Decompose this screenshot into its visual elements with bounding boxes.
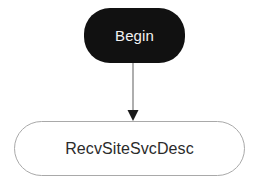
node-recvsitesvcdesc-label: RecvSiteSvcDesc [65, 141, 194, 157]
node-begin[interactable]: Begin [84, 8, 185, 63]
node-begin-label: Begin [115, 28, 154, 43]
arrowhead-icon [128, 110, 139, 121]
node-recvsitesvcdesc[interactable]: RecvSiteSvcDesc [14, 121, 245, 176]
flowchart-canvas: Begin RecvSiteSvcDesc [0, 0, 259, 183]
